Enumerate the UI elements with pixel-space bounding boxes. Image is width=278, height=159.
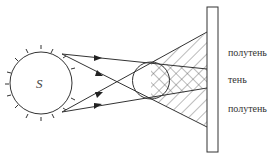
source-label: S	[36, 76, 43, 91]
shadow-diagram: S полутень тень полутень	[0, 0, 278, 159]
arrow-icons	[94, 55, 103, 109]
screen	[207, 7, 218, 152]
umbra-label: тень	[228, 74, 247, 85]
penumbra-bottom-label: полутень	[228, 103, 267, 114]
penumbra-top-label: полутень	[228, 47, 267, 58]
